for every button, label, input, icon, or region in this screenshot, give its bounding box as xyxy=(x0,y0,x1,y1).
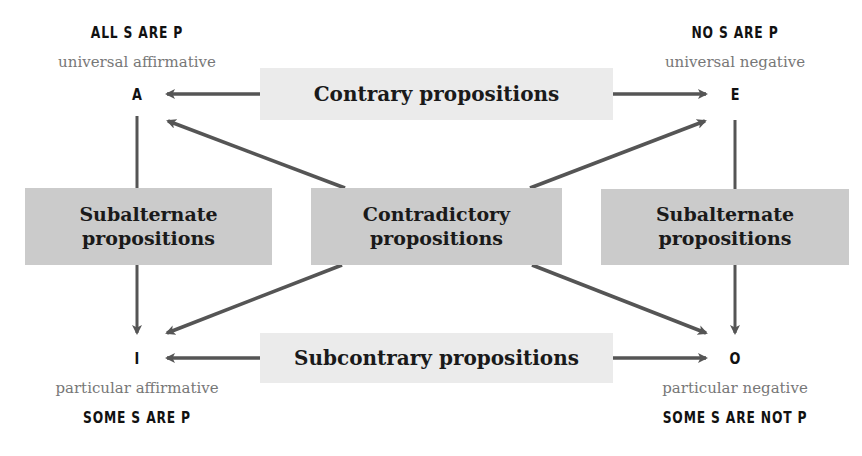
contradictory-arrow-to-e xyxy=(530,121,705,188)
corner-o-heading: SOME S ARE NOT P xyxy=(645,409,825,427)
subalternate-right-box: Subalternate propositions xyxy=(601,189,849,265)
contrary-label: Contrary propositions xyxy=(314,82,560,107)
subalternate-left-box: Subalternate propositions xyxy=(25,188,272,265)
corner-e-heading: NO S ARE P xyxy=(661,24,809,42)
contradictory-line1: Contradictory xyxy=(363,203,510,227)
corner-a-subtitle: universal affirmative xyxy=(37,53,237,71)
subalternate-left-line1: Subalternate xyxy=(79,203,217,227)
subalternate-left-line2: propositions xyxy=(82,227,215,251)
subcontrary-box: Subcontrary propositions xyxy=(260,333,613,383)
contrary-box: Contrary propositions xyxy=(260,68,613,120)
subalternate-right-line2: propositions xyxy=(658,227,791,251)
contradictory-box: Contradictory propositions xyxy=(311,188,562,265)
subalternate-right-line1: Subalternate xyxy=(656,203,794,227)
corner-a-heading: ALL S ARE P xyxy=(63,24,211,42)
corner-i-heading: SOME S ARE P xyxy=(63,409,211,427)
corner-o-letter: O xyxy=(727,349,743,368)
corner-o-subtitle: particular negative xyxy=(635,379,835,397)
contradictory-arrow-to-o xyxy=(532,265,706,333)
corner-a-letter: A xyxy=(129,85,145,104)
contradictory-arrow-to-i xyxy=(167,265,342,333)
contradictory-arrow-to-a xyxy=(168,121,345,188)
corner-e-subtitle: universal negative xyxy=(635,53,835,71)
corner-i-letter: I xyxy=(129,349,145,368)
contradictory-line2: propositions xyxy=(370,227,503,251)
corner-i-subtitle: particular affirmative xyxy=(37,379,237,397)
corner-e-letter: E xyxy=(727,85,743,104)
subcontrary-label: Subcontrary propositions xyxy=(294,346,579,371)
